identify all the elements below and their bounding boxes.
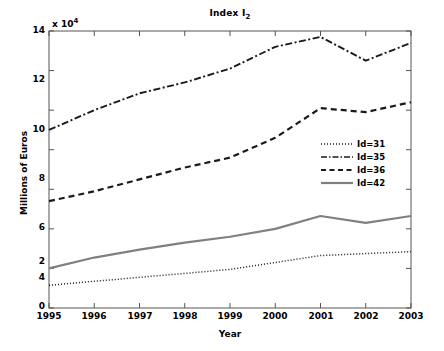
- series-line-id-35: [49, 37, 411, 130]
- legend-item[interactable]: Id=42: [320, 176, 385, 189]
- legend-item[interactable]: Id=31: [320, 137, 385, 150]
- legend-item[interactable]: Id=35: [320, 150, 385, 163]
- legend-label: Id=36: [357, 165, 385, 175]
- chart-legend: Id=31 Id=35 Id=36 Id=42: [320, 137, 385, 189]
- chart-figure: Index I2 x 104 Millions of Euros Year 14…: [0, 0, 444, 351]
- series-line-id-42: [49, 216, 411, 268]
- legend-swatch-id42: [320, 178, 354, 188]
- legend-item[interactable]: Id=36: [320, 163, 385, 176]
- legend-swatch-id35: [320, 152, 354, 162]
- legend-swatch-id36: [320, 165, 354, 175]
- legend-label: Id=35: [357, 152, 385, 162]
- legend-label: Id=42: [357, 178, 385, 188]
- legend-label: Id=31: [357, 139, 385, 149]
- legend-swatch-id31: [320, 139, 354, 149]
